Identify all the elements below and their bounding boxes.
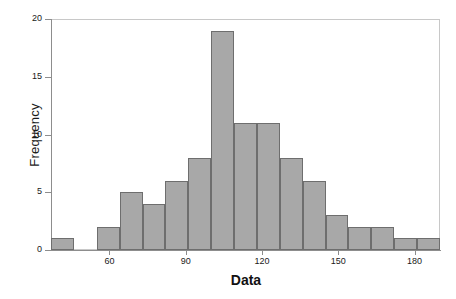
y-tick-label: 20	[22, 13, 42, 23]
y-tick-mark	[45, 19, 51, 20]
x-tick-mark	[338, 250, 339, 255]
y-tick-label: 5	[22, 186, 42, 196]
y-axis-line	[51, 19, 52, 250]
x-tick-label: 150	[318, 256, 358, 266]
x-tick-mark	[415, 250, 416, 255]
x-tick-label: 90	[166, 256, 206, 266]
y-tick-mark	[45, 135, 51, 136]
y-tick-mark	[45, 250, 51, 251]
y-tick-label: 15	[22, 71, 42, 81]
x-axis-title: Data	[51, 272, 441, 288]
y-tick-mark	[45, 77, 51, 78]
x-tick-mark	[109, 250, 110, 255]
x-tick-label: 180	[395, 256, 435, 266]
y-tick-label: 0	[22, 244, 42, 254]
x-tick-label: 120	[242, 256, 282, 266]
x-tick-label: 60	[89, 256, 129, 266]
y-tick-mark	[45, 192, 51, 193]
plot-area-frame	[51, 19, 440, 250]
histogram-figure: Frequency 05101520 6090120150180 Data	[0, 0, 456, 299]
y-tick-label: 10	[22, 129, 42, 139]
x-tick-mark	[186, 250, 187, 255]
x-tick-mark	[262, 250, 263, 255]
